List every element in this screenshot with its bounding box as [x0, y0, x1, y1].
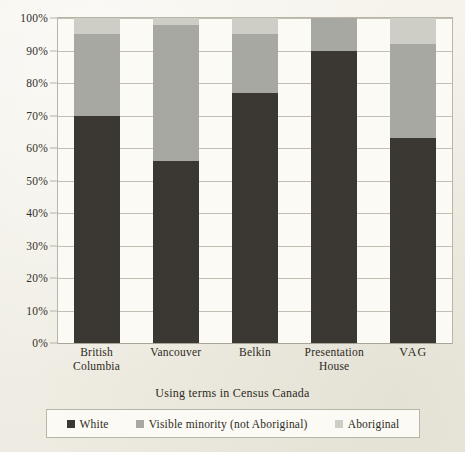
stacked-bar[interactable] — [311, 18, 357, 343]
x-axis-category-label: Presentation House — [295, 346, 374, 373]
bar-segment-white[interactable] — [311, 51, 357, 344]
y-axis-tick-mark — [50, 343, 57, 344]
bar-series-container — [58, 18, 452, 343]
bar-slot — [137, 18, 216, 343]
x-axis-category-label: British Columbia — [57, 346, 136, 373]
y-axis-tick-mark — [50, 278, 57, 279]
y-axis-tick-label: 80% — [26, 77, 48, 89]
chart-legend: WhiteVisible minority (not Aboriginal)Ab… — [46, 409, 420, 438]
gridline — [58, 343, 452, 344]
bar-slot — [373, 18, 452, 343]
bar-slot — [216, 18, 295, 343]
bar-segment-aboriginal[interactable] — [74, 18, 120, 34]
y-axis-tick-label: 40% — [26, 207, 48, 219]
bar-segment-white[interactable] — [153, 161, 199, 343]
legend-label: Visible minority (not Aboriginal) — [149, 418, 308, 430]
legend-item[interactable]: White — [67, 418, 109, 430]
y-axis-tick-label: 60% — [26, 142, 48, 154]
legend-label: White — [80, 418, 109, 430]
bar-segment-white[interactable] — [74, 116, 120, 344]
legend-swatch-icon — [67, 420, 75, 428]
y-axis-tick-label: 30% — [26, 240, 48, 252]
y-axis-tick-mark — [50, 115, 57, 116]
stacked-bar[interactable] — [232, 18, 278, 343]
y-axis: 0%10%20%30%40%50%60%70%80%90%100% — [0, 17, 57, 344]
bar-segment-visible-minority[interactable] — [74, 34, 120, 115]
bar-segment-aboriginal[interactable] — [232, 18, 278, 34]
y-axis-tick-label: 20% — [26, 272, 48, 284]
bar-segment-white[interactable] — [232, 93, 278, 343]
bar-segment-white[interactable] — [390, 138, 436, 343]
stacked-bar[interactable] — [390, 18, 436, 343]
y-axis-tick-label: 90% — [26, 45, 48, 57]
y-axis-tick-label: 10% — [26, 305, 48, 317]
bar-slot — [294, 18, 373, 343]
x-axis-category-label: Vancouver — [136, 346, 215, 373]
y-axis-tick-label: 50% — [26, 175, 48, 187]
y-axis-tick-mark — [50, 18, 57, 19]
y-axis-tick-mark — [50, 148, 57, 149]
y-axis-tick-mark — [50, 245, 57, 246]
x-axis-labels: British ColumbiaVancouverBelkinPresentat… — [57, 346, 453, 373]
y-axis-tick-mark — [50, 310, 57, 311]
x-axis-category-label: VAG — [374, 346, 453, 373]
x-axis-category-label: Belkin — [215, 346, 294, 373]
y-axis-tick-mark — [50, 180, 57, 181]
bar-segment-visible-minority[interactable] — [311, 18, 357, 51]
legend-swatch-icon — [136, 420, 144, 428]
y-axis-tick-label: 100% — [20, 12, 48, 24]
legend-label: Aboriginal — [348, 418, 400, 430]
x-axis-title: Using terms in Census Canada — [0, 386, 465, 401]
legend-item[interactable]: Aboriginal — [335, 418, 400, 430]
y-axis-tick-mark — [50, 50, 57, 51]
y-axis-tick-label: 70% — [26, 110, 48, 122]
legend-swatch-icon — [335, 420, 343, 428]
stacked-bar[interactable] — [153, 18, 199, 343]
legend-item[interactable]: Visible minority (not Aboriginal) — [136, 418, 308, 430]
stacked-bar[interactable] — [74, 18, 120, 343]
y-axis-tick-mark — [50, 213, 57, 214]
y-axis-tick-mark — [50, 83, 57, 84]
bar-segment-aboriginal[interactable] — [390, 18, 436, 44]
chart-plot-area — [57, 17, 453, 344]
bar-slot — [58, 18, 137, 343]
bar-segment-visible-minority[interactable] — [390, 44, 436, 138]
y-axis-tick-label: 0% — [32, 337, 48, 349]
bar-segment-visible-minority[interactable] — [153, 25, 199, 162]
bar-segment-visible-minority[interactable] — [232, 34, 278, 93]
